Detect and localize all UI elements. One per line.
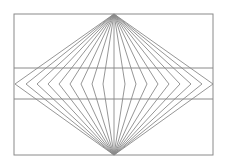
ray-line: [114, 14, 213, 155]
illusion-diagram: [0, 0, 229, 164]
frame-rect: [14, 14, 213, 155]
ray-line: [114, 14, 169, 155]
radiating-lines: [15, 14, 213, 155]
ray-line: [15, 14, 114, 155]
horizontal-lines: [14, 68, 213, 99]
ray-line: [59, 14, 114, 155]
frame: [14, 14, 213, 155]
